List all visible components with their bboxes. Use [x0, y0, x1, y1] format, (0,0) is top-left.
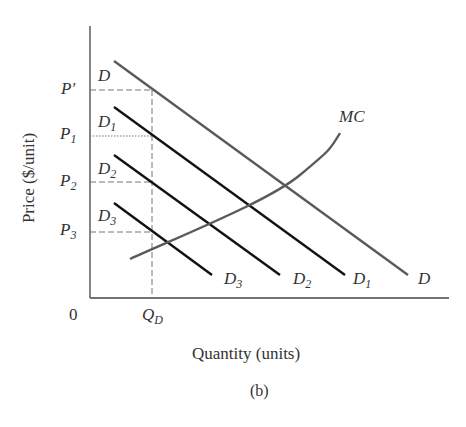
label-mc: MC: [339, 108, 365, 125]
y-axis-title: Price ($/unit): [19, 133, 39, 223]
label-d3-start: D3: [98, 207, 116, 227]
demand-curve-d2: [114, 155, 280, 275]
figure-caption: (b): [250, 382, 269, 400]
origin-label: 0: [69, 306, 78, 323]
x-tick-qd: QD: [142, 306, 163, 326]
label-d-start: D: [98, 67, 110, 84]
y-tick-p1: P1: [60, 125, 76, 145]
y-tick-p-prime: P′: [61, 80, 75, 97]
label-d2-end: D2: [293, 270, 311, 290]
label-d3-end: D3: [224, 270, 242, 290]
x-axis-title: Quantity (units): [192, 344, 300, 364]
label-d2-start: D2: [98, 160, 116, 180]
label-d1-start: D1: [98, 113, 116, 133]
label-d-end: D: [418, 270, 430, 287]
label-d1-end: D1: [353, 270, 371, 290]
demand-curve-d: [114, 61, 408, 275]
y-tick-p2: P2: [60, 172, 76, 192]
y-tick-p3: P3: [60, 221, 76, 241]
